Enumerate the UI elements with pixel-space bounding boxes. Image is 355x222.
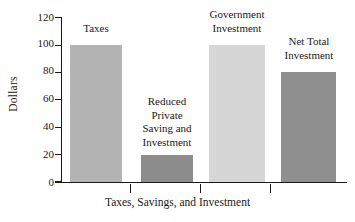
- bar-government-investment: [209, 45, 265, 183]
- bar-label-taxes: Taxes: [60, 22, 132, 36]
- y-axis-line: [61, 17, 62, 183]
- bar-chart-figure: Dollars 120 100 80 60 40 20 0 Taxes Redu…: [0, 0, 355, 222]
- bar-label-reduced-private-saving-and-investment: Reduced Private Saving and Investment: [129, 95, 205, 149]
- bar-taxes: [70, 45, 122, 183]
- bar-label-government-investment: Government Investment: [195, 8, 279, 35]
- bar-net-total-investment: [281, 72, 336, 182]
- bar-reduced-private-saving-and-investment: [141, 155, 193, 183]
- x-tick-mark-2: [200, 184, 201, 193]
- bar-label-net-total-investment: Net Total Investment: [272, 35, 346, 62]
- y-tick-label-60: 60: [28, 93, 54, 104]
- y-tick-label-40: 40: [28, 121, 54, 132]
- x-axis-line: [57, 182, 347, 183]
- y-tick-label-0: 0: [28, 177, 54, 188]
- y-axis-tick-labels: 120 100 80 60 40 20 0: [24, 0, 54, 222]
- y-axis-title: Dollars: [7, 59, 19, 129]
- y-tick-label-80: 80: [28, 65, 54, 76]
- x-tick-mark-1: [130, 184, 131, 193]
- x-axis-title: Taxes, Savings, and Investment: [0, 196, 355, 208]
- y-tick-label-120: 120: [28, 12, 54, 23]
- x-tick-mark-3: [270, 184, 271, 193]
- y-tick-label-20: 20: [28, 149, 54, 160]
- y-tick-label-100: 100: [28, 38, 54, 49]
